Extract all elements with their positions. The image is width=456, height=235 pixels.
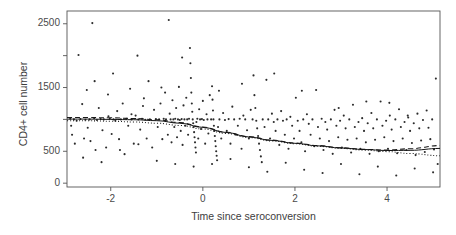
data-point bbox=[201, 118, 203, 120]
data-point bbox=[273, 121, 275, 123]
data-point bbox=[244, 118, 246, 120]
data-point bbox=[248, 166, 250, 168]
data-point bbox=[231, 106, 233, 108]
data-point bbox=[304, 150, 306, 152]
data-point bbox=[258, 143, 260, 145]
data-point bbox=[432, 171, 434, 173]
data-point bbox=[265, 79, 267, 81]
data-point bbox=[293, 137, 295, 139]
data-point bbox=[214, 135, 216, 137]
cd4-scatter-figure: CD4+ cell number Time since seroconversi… bbox=[0, 0, 456, 235]
data-point bbox=[159, 102, 161, 104]
data-point bbox=[317, 126, 319, 128]
data-point bbox=[388, 102, 390, 104]
data-point bbox=[306, 113, 308, 115]
data-point bbox=[174, 118, 176, 120]
data-point bbox=[118, 138, 120, 140]
data-point bbox=[142, 105, 144, 107]
data-point bbox=[171, 99, 173, 101]
data-point bbox=[218, 118, 220, 120]
data-point bbox=[424, 151, 426, 153]
data-point bbox=[213, 125, 215, 127]
data-point bbox=[135, 115, 137, 117]
data-point bbox=[392, 140, 394, 142]
data-point bbox=[402, 137, 404, 139]
data-point bbox=[222, 112, 224, 114]
data-point bbox=[133, 143, 135, 145]
data-point bbox=[83, 137, 85, 139]
data-point bbox=[376, 118, 378, 120]
data-point bbox=[328, 140, 330, 142]
data-point bbox=[252, 74, 254, 76]
data-point bbox=[315, 89, 317, 91]
data-point bbox=[286, 118, 288, 120]
data-point bbox=[181, 57, 183, 59]
data-point bbox=[180, 130, 182, 132]
data-point bbox=[354, 126, 356, 128]
data-point bbox=[82, 157, 84, 159]
curve-dashed bbox=[67, 117, 440, 150]
data-point bbox=[326, 129, 328, 131]
data-point bbox=[74, 143, 76, 145]
data-point bbox=[319, 137, 321, 139]
data-point bbox=[203, 119, 205, 121]
data-point bbox=[322, 172, 324, 174]
data-point bbox=[415, 154, 417, 156]
data-point bbox=[361, 117, 363, 119]
data-point bbox=[206, 118, 208, 120]
data-point bbox=[256, 127, 258, 129]
data-point bbox=[193, 131, 195, 133]
plot-frame bbox=[67, 11, 440, 187]
data-point bbox=[215, 150, 217, 152]
data-point bbox=[363, 130, 365, 132]
data-point bbox=[194, 136, 196, 138]
data-point bbox=[81, 103, 83, 105]
data-point bbox=[345, 127, 347, 129]
data-point bbox=[356, 137, 358, 139]
data-point bbox=[253, 94, 255, 96]
y-tick-label: 2500 bbox=[14, 17, 60, 28]
data-point bbox=[437, 163, 439, 165]
data-point bbox=[169, 113, 171, 115]
data-point bbox=[308, 123, 310, 125]
data-point bbox=[389, 115, 391, 117]
data-point bbox=[381, 125, 383, 127]
data-point bbox=[160, 86, 162, 88]
data-point bbox=[191, 111, 193, 113]
data-point bbox=[271, 113, 273, 115]
data-point bbox=[204, 143, 206, 145]
data-point bbox=[229, 158, 231, 160]
x-axis-label: Time since seroconversion bbox=[67, 210, 440, 222]
data-point bbox=[348, 118, 350, 120]
data-point bbox=[182, 104, 184, 106]
y-tick-label: 0 bbox=[14, 177, 60, 188]
data-point bbox=[324, 121, 326, 123]
data-point bbox=[343, 115, 345, 117]
data-point bbox=[435, 78, 437, 80]
data-point bbox=[71, 134, 73, 136]
data-point bbox=[211, 163, 213, 165]
data-point bbox=[398, 108, 400, 110]
data-point bbox=[229, 143, 231, 145]
data-point bbox=[350, 152, 352, 154]
data-point bbox=[252, 118, 254, 120]
data-point bbox=[289, 116, 291, 118]
data-point bbox=[215, 145, 217, 147]
data-point bbox=[119, 149, 121, 151]
data-point bbox=[220, 137, 222, 139]
data-point bbox=[284, 134, 286, 136]
data-point bbox=[86, 89, 88, 91]
data-point bbox=[322, 149, 324, 151]
data-point bbox=[310, 134, 312, 136]
data-point bbox=[197, 137, 199, 139]
data-point bbox=[207, 132, 209, 134]
data-point bbox=[295, 97, 297, 99]
data-point bbox=[70, 125, 72, 127]
data-point bbox=[228, 118, 230, 120]
data-point bbox=[193, 166, 195, 168]
data-point bbox=[340, 163, 342, 165]
data-point bbox=[431, 118, 433, 120]
data-point bbox=[136, 55, 138, 57]
data-point bbox=[357, 121, 359, 123]
data-point bbox=[287, 148, 289, 150]
